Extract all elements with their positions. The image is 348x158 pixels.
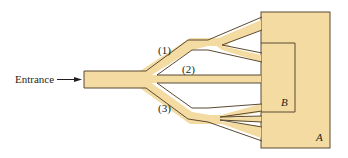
entrance-label: Entrance [15, 73, 54, 85]
entrance-arrow-icon [57, 77, 82, 82]
region-b-label: B [281, 96, 288, 108]
branch-2-label: (2) [182, 63, 195, 76]
flow-diagram: Entrance (1) (2) (3) B A [0, 0, 348, 158]
branch-3-label: (3) [158, 102, 171, 115]
region-a-label: A [315, 131, 323, 143]
branch-1-label: (1) [158, 44, 171, 57]
